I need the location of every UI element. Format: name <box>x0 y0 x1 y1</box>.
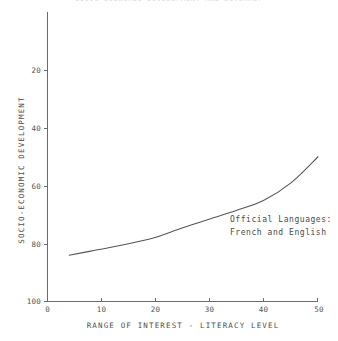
chart-figure: SOCIO-ECONOMIC DEVELOPMENT AND LITERACY … <box>0 0 338 341</box>
x-axis-tick-labels: 0 10 20 30 40 50 <box>45 305 324 314</box>
line-chart-plot: 20 40 60 80 100 0 10 20 30 40 50 RANGE O… <box>0 0 338 341</box>
x-tick-label-40: 40 <box>259 305 269 314</box>
y-axis-ticks <box>44 71 48 302</box>
x-tick-label-20: 20 <box>151 305 161 314</box>
y-tick-label-20: 20 <box>32 66 42 75</box>
x-axis-ticks <box>48 298 318 302</box>
x-tick-label-10: 10 <box>97 305 107 314</box>
x-tick-label-0: 0 <box>45 305 50 314</box>
y-axis-title: SOCIO-ECONOMIC DEVELOPMENT <box>17 96 26 243</box>
y-tick-label-100: 100 <box>27 297 41 306</box>
annotation-line-1: Official Languages: <box>230 215 332 224</box>
official-languages-annotation: Official Languages: French and English <box>230 215 332 237</box>
y-axis-tick-labels: 20 40 60 80 100 <box>27 66 41 306</box>
y-tick-label-80: 80 <box>32 240 42 249</box>
data-curve-path <box>69 157 318 255</box>
annotation-line-2: French and English <box>230 228 327 237</box>
y-tick-label-40: 40 <box>32 124 42 133</box>
y-tick-label-60: 60 <box>32 182 42 191</box>
x-axis-title: RANGE OF INTEREST - LITERACY LEVEL <box>87 321 280 330</box>
x-tick-label-50: 50 <box>314 305 324 314</box>
x-tick-label-30: 30 <box>205 305 215 314</box>
